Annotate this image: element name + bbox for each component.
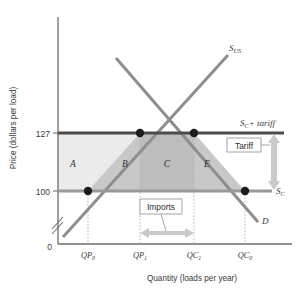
x-tick-qp0: QP0 [81, 251, 95, 261]
tariff-callout-label: Tariff [235, 141, 254, 151]
world-supply-tariff-label-suffix: + tariff [249, 118, 277, 128]
supply-us-label-sub: US [234, 47, 242, 54]
x-tick-qp0-base: QP [81, 251, 92, 260]
x-tick-qc1-base: QC [187, 251, 199, 260]
x-tick-qp1-sub: 1 [144, 255, 147, 261]
dot-qp0 [84, 187, 92, 195]
chart-svg: 127 100 0 Price (dollars per load) Quant… [0, 0, 304, 289]
x-tick-qc0-base: QC [238, 251, 250, 260]
x-tick-qc0-sub: 0 [249, 255, 252, 261]
dot-qc1 [190, 129, 198, 137]
shaded-regions [58, 133, 245, 191]
imports-double-arrow [140, 228, 194, 238]
x-tick-qc1-sub: 1 [198, 255, 201, 261]
y-tick-label-127: 127 [36, 129, 51, 139]
world-supply-tariff-label: SC+ tariff [240, 118, 276, 129]
region-label-e: E [203, 159, 210, 169]
origin-label: 0 [47, 242, 52, 252]
imports-callout-label: Imports [147, 202, 175, 212]
imports-callout-leader [161, 214, 166, 231]
imports-annotation: Imports [140, 199, 194, 238]
x-tick-labels: QP0 QP1 QC1 QC0 [81, 251, 252, 261]
world-supply-label-sub: C [281, 190, 286, 197]
tariff-double-arrow [268, 134, 280, 190]
demand-label: D [261, 216, 269, 226]
x-tick-qp0-sub: 0 [92, 255, 95, 261]
x-tick-qc1: QC1 [187, 251, 202, 261]
x-tick-qp1: QP1 [133, 251, 147, 261]
region-label-b: B [122, 159, 128, 169]
x-tick-qc0: QC0 [238, 251, 253, 261]
y-axis-title: Price (dollars per load) [9, 87, 18, 170]
world-supply-label: SC [276, 186, 286, 197]
x-axis-title: Quantity (loads per year) [147, 274, 237, 283]
y-tick-label-100: 100 [36, 187, 51, 197]
dot-qp1 [136, 129, 144, 137]
tariff-chart: 127 100 0 Price (dollars per load) Quant… [0, 0, 304, 289]
region-label-c: C [164, 159, 171, 169]
x-tick-qp1-base: QP [133, 251, 144, 260]
region-label-a: A [69, 159, 76, 169]
dot-qc0 [241, 187, 249, 195]
supply-us-label: SUS [229, 43, 241, 54]
